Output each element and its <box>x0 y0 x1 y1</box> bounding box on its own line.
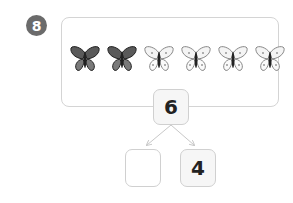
part-number-box: 4 <box>180 149 216 187</box>
part-answer-input-box[interactable] <box>125 149 161 187</box>
arrow-left-icon <box>147 125 171 145</box>
arrow-right-icon <box>171 125 194 145</box>
whole-number-box: 6 <box>153 89 189 125</box>
